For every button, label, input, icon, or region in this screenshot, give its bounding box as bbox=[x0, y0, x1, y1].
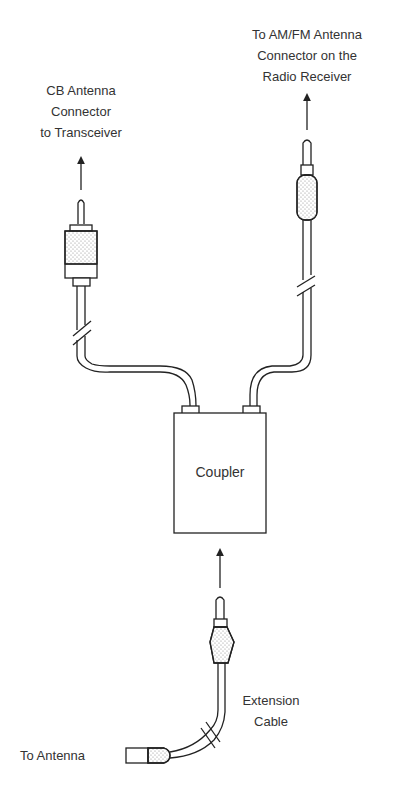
label-line: to Transceiver bbox=[20, 122, 142, 143]
amfm-plug-connector bbox=[297, 140, 317, 220]
amfm-connector-label: To AM/FM Antenna Connector on the Radio … bbox=[220, 24, 394, 87]
amfm-cable bbox=[250, 220, 315, 406]
extension-plug-connector bbox=[210, 597, 234, 663]
label-line: Cable bbox=[228, 711, 314, 732]
cb-connector-label: CB Antenna Connector to Transceiver bbox=[20, 80, 142, 143]
to-antenna-label: To Antenna bbox=[20, 745, 120, 766]
extension-cable bbox=[170, 663, 225, 758]
label-line: To AM/FM Antenna bbox=[220, 24, 394, 45]
antenna-jack-connector bbox=[126, 748, 170, 763]
extension-cable-label: Extension Cable bbox=[228, 690, 314, 732]
label-line: Radio Receiver bbox=[220, 66, 394, 87]
label-line: Extension bbox=[228, 690, 314, 711]
coupler-label: Coupler bbox=[174, 462, 266, 483]
cb-cable bbox=[73, 286, 196, 406]
label-line: CB Antenna bbox=[20, 80, 142, 101]
label-line: Connector on the bbox=[220, 45, 394, 66]
label-line: Connector bbox=[20, 101, 142, 122]
cb-plug-connector bbox=[65, 200, 97, 286]
